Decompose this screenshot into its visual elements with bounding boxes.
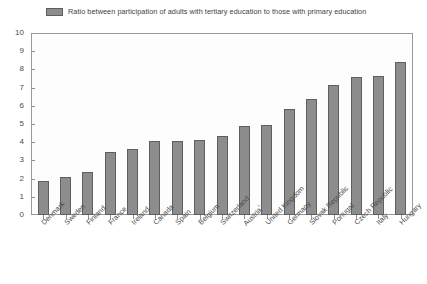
x-tick-label: Hungary (398, 202, 422, 226)
x-tick-label: Austria¹ (241, 204, 264, 227)
x-tick-label: Finland (85, 204, 107, 226)
footnote-marker: ¹ (257, 203, 262, 208)
x-tick-label: Italy (375, 212, 389, 226)
x-tick-label: Denmark (40, 200, 66, 226)
x-tick-label: Ireland (130, 205, 151, 226)
x-tick-label: France (107, 205, 128, 226)
x-tick-label: Canada (152, 203, 175, 226)
bar-chart: Ratio between participation of adults wi… (0, 0, 427, 284)
x-axis: DenmarkSwedenFinlandFranceIrelandCanadaS… (0, 0, 427, 284)
x-tick-label: Spain (174, 208, 192, 226)
